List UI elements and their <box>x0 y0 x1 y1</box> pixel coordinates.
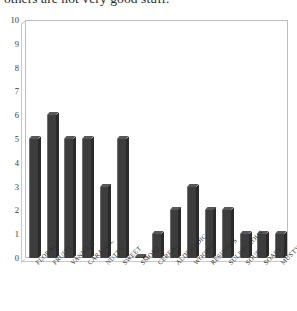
bar-side-face <box>213 208 216 258</box>
x-axis-tick: NUTTY <box>100 259 109 311</box>
bar-series <box>25 20 288 258</box>
clipped-body-text-line: others are not very good stuff. <box>4 0 170 7</box>
bar-chart: 109876543210 FLORALFRUITYVANILLACARAMELN… <box>0 11 297 311</box>
bar <box>117 139 126 258</box>
bar-slot <box>275 20 284 258</box>
y-axis-tick-label: 0 <box>0 254 19 263</box>
y-axis-tick-label: 1 <box>0 230 19 239</box>
y-axis-tick-label: 2 <box>0 206 19 215</box>
bar <box>47 115 56 258</box>
bar-slot <box>100 20 109 258</box>
bar-side-face <box>38 136 41 258</box>
bar-slot <box>82 20 91 258</box>
x-axis-tick: VANILLA <box>64 259 73 311</box>
x-axis-tick: ALDEHYDIC <box>170 259 179 311</box>
bar <box>29 139 38 258</box>
bar-slot <box>29 20 38 258</box>
y-axis-tick-label: 10 <box>0 16 19 25</box>
x-axis-tick: SWEET <box>117 259 126 311</box>
x-axis-tick: FLORAL <box>29 259 38 311</box>
x-axis-tick: FRUITY <box>47 259 56 311</box>
y-axis-tick-label: 4 <box>0 159 19 168</box>
x-axis-tick: RESINOUS <box>205 259 214 311</box>
bar <box>64 139 73 258</box>
x-axis-tick: SOUR <box>240 259 249 311</box>
bar-slot <box>152 20 161 258</box>
bar-slot <box>205 20 214 258</box>
bar-side-face <box>231 208 234 258</box>
x-axis-tick: SMOKY <box>135 259 144 311</box>
y-axis-tick-label: 5 <box>0 135 19 144</box>
y-axis-labels: 109876543210 <box>0 11 19 271</box>
bar-front-face <box>64 139 73 258</box>
y-axis-tick-label: 3 <box>0 183 19 192</box>
x-axis-tick: WOODY <box>187 259 196 311</box>
x-axis-tick: SULPHUROUS <box>222 259 231 311</box>
x-axis-tick: SOAPY <box>257 259 266 311</box>
y-axis-tick-label: 8 <box>0 64 19 73</box>
bar-front-face <box>29 139 38 258</box>
y-axis-tick-label: 6 <box>0 111 19 120</box>
bar-side-face <box>56 113 59 258</box>
x-axis-tick: MUSTY <box>275 259 284 311</box>
bar-slot <box>222 20 231 258</box>
bar-side-face <box>73 136 76 258</box>
bar-side-face <box>126 136 129 258</box>
bar-side-face <box>178 208 181 258</box>
bar-slot <box>187 20 196 258</box>
y-axis-tick-label: 7 <box>0 87 19 96</box>
bar-slot <box>47 20 56 258</box>
bar-slot <box>117 20 126 258</box>
bar-slot <box>64 20 73 258</box>
bar-front-face <box>47 115 56 258</box>
x-axis-tick: CARAMEL <box>82 259 91 311</box>
y-axis-tick-label: 9 <box>0 40 19 49</box>
bar-slot <box>135 20 144 258</box>
x-axis-tick: CEREAL <box>152 259 161 311</box>
bar-slot <box>257 20 266 258</box>
clipped-body-text: others are not very good stuff. <box>0 0 297 11</box>
bar-slot <box>170 20 179 258</box>
x-axis-labels: FLORALFRUITYVANILLACARAMELNUTTYSWEETSMOK… <box>25 259 288 311</box>
bar-slot <box>240 20 249 258</box>
bar-front-face <box>117 139 126 258</box>
